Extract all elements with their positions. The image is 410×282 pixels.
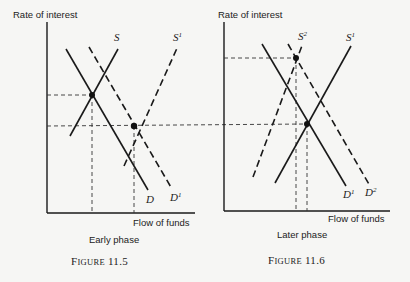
label-S1: S1: [346, 31, 355, 43]
supply-curve-S1: [275, 46, 351, 183]
figure-11-6: Rate of interest S2 S1 D1 D2 Flow of fun…: [218, 9, 390, 266]
figure-caption: FIGURE 11.5: [71, 255, 128, 267]
label-D: D: [145, 193, 154, 205]
x-axis-label: Flow of funds: [328, 213, 385, 224]
label-S: S: [114, 31, 120, 43]
label-S2: S2: [298, 30, 308, 42]
figure-caption: FIGURE 11.6: [268, 254, 325, 266]
label-S1: S1: [173, 31, 182, 43]
supply-curve-S1: [124, 46, 178, 166]
equilibrium-point-2: [131, 123, 137, 129]
label-D1: D1: [342, 188, 354, 200]
demand-curve-D2: [288, 44, 370, 186]
guide-h-2: [47, 124, 308, 126]
y-axis-label: Rate of interest: [13, 9, 78, 20]
phase-label: Later phase: [277, 229, 327, 240]
label-D1: D1: [169, 191, 181, 203]
equilibrium-point-2: [304, 121, 310, 127]
phase-label: Early phase: [89, 234, 139, 245]
supply-curve-S2: [253, 43, 303, 177]
supply-demand-diagrams: Rate of interest S S1 D D1 Flow of funds…: [0, 0, 410, 282]
y-axis-label: Rate of interest: [218, 9, 283, 20]
x-axis-label: Flow of funds: [133, 217, 190, 228]
equilibrium-point-1: [293, 55, 299, 61]
equilibrium-point-1: [89, 92, 95, 98]
supply-curve-S: [70, 49, 118, 136]
demand-curve-D1: [89, 47, 172, 189]
label-D2: D2: [364, 186, 377, 198]
demand-curve-D1: [262, 44, 346, 186]
